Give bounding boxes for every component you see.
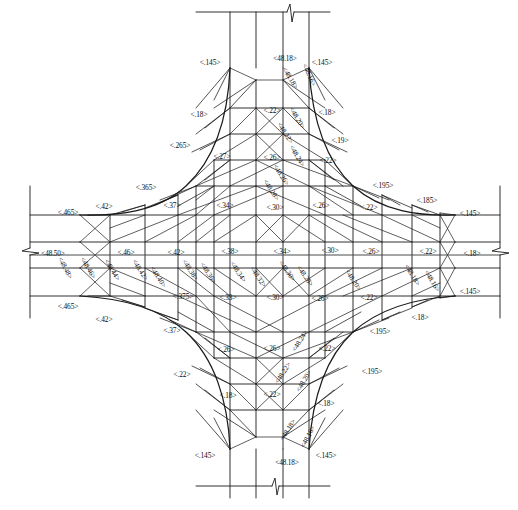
sw-hatch	[110, 268, 309, 410]
grading-plan-svg	[0, 0, 518, 510]
west-leg-edges	[22, 186, 80, 318]
drawing-sheet: <.145><48.18><.145><48.18><48.16><.18><.…	[0, 0, 518, 510]
south-leg-hatch	[230, 437, 309, 449]
sw-flow-lines	[88, 296, 256, 449]
nw-hatch	[110, 108, 309, 242]
grid-horizontal	[80, 108, 455, 410]
south-leg-edges	[196, 449, 330, 498]
north-leg-hatch	[230, 68, 309, 80]
corner-curves	[80, 68, 455, 449]
north-leg-edges	[196, 4, 330, 68]
east-leg-edges	[455, 186, 509, 318]
nw-flow-lines	[88, 68, 256, 215]
